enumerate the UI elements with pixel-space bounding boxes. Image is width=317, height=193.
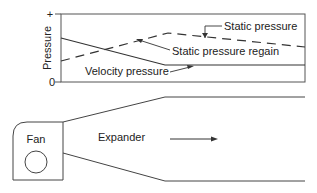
static-pressure-regain-label: Static pressure regain [172,45,279,57]
y-axis-label: Pressure [41,26,53,70]
y-tick-top-label: + [47,8,53,20]
velocity-leader [170,67,190,72]
expander-top-wall [63,97,305,122]
flow-arrow-icon [211,137,218,142]
pressure-diagram: + 0 Pressure Static pressure Static pres… [0,0,317,193]
fan-label: Fan [27,133,46,145]
static-pressure-label: Static pressure [224,20,297,32]
expander-bottom-wall [63,153,305,181]
static-regain-leader [139,40,170,50]
y-tick-bottom-label: 0 [49,76,55,88]
velocity-pressure-label: Velocity pressure [85,65,169,77]
fan-wheel-icon [25,151,47,173]
arrowhead-icon [202,33,208,38]
expander-label: Expander [98,131,145,143]
static-pressure-leader [205,26,222,38]
